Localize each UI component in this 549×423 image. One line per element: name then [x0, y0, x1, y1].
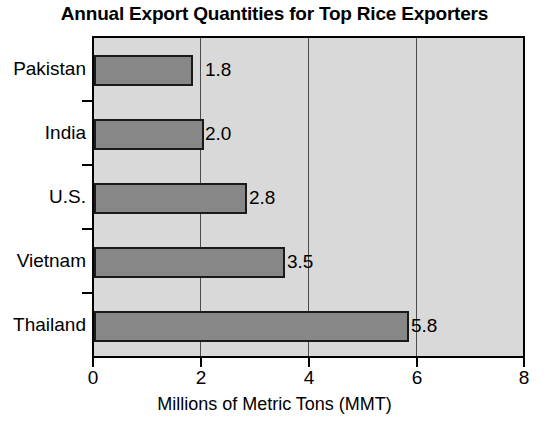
plot-area	[92, 36, 525, 358]
x-tick-8	[523, 358, 525, 367]
gridline-4	[308, 38, 309, 356]
bar-pakistan	[94, 55, 193, 86]
y-label-thailand: Thailand	[0, 315, 86, 334]
value-label-india: 2.0	[205, 124, 231, 143]
y-label-us: U.S.	[0, 187, 86, 206]
x-tick-0	[92, 358, 94, 367]
x-tick-label-8: 8	[504, 368, 544, 387]
bar-india	[94, 119, 204, 150]
x-tick-label-0: 0	[73, 368, 113, 387]
y-label-india: India	[0, 123, 86, 142]
value-label-us: 2.8	[249, 188, 275, 207]
bar-us	[94, 183, 247, 214]
bar-chart: Annual Export Quantities for Top Rice Ex…	[0, 0, 549, 423]
y-tick-1	[82, 100, 92, 102]
value-label-vietnam: 3.5	[287, 252, 313, 271]
x-tick-6	[416, 358, 418, 367]
y-label-pakistan: Pakistan	[0, 59, 86, 78]
value-label-pakistan: 1.8	[205, 60, 231, 79]
bar-vietnam	[94, 247, 285, 278]
y-tick-4	[82, 292, 92, 294]
x-tick-4	[308, 358, 310, 367]
gridline-6	[416, 38, 417, 356]
x-axis-title: Millions of Metric Tons (MMT)	[0, 393, 549, 415]
x-tick-label-4: 4	[289, 368, 329, 387]
bar-thailand	[94, 311, 409, 342]
value-label-thailand: 5.8	[411, 316, 437, 335]
y-tick-2	[82, 164, 92, 166]
x-tick-2	[200, 358, 202, 367]
y-label-vietnam: Vietnam	[0, 251, 86, 270]
y-axis-labels: Pakistan India U.S. Vietnam Thailand	[0, 36, 86, 358]
x-tick-label-6: 6	[397, 368, 437, 387]
chart-title: Annual Export Quantities for Top Rice Ex…	[0, 2, 549, 26]
y-tick-3	[82, 228, 92, 230]
x-tick-label-2: 2	[181, 368, 221, 387]
